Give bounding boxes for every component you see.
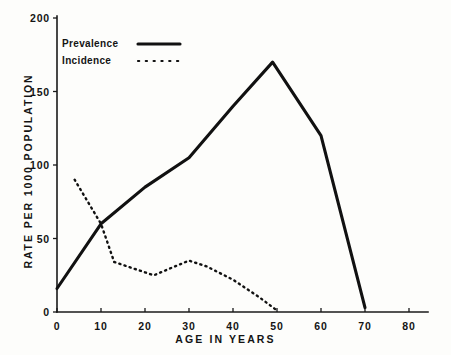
y-tick-label: 0 <box>8 306 50 318</box>
x-tick-label: 50 <box>270 320 283 332</box>
legend-label-prevalence: Prevalence <box>62 38 136 49</box>
x-tick-label: 80 <box>402 320 415 332</box>
legend-item-prevalence: Prevalence <box>62 35 188 52</box>
legend-swatch-dotted-icon <box>136 56 188 66</box>
legend-swatch-solid-icon <box>136 39 188 49</box>
legend-label-incidence: Incidence <box>62 55 136 66</box>
series-line-incidence <box>75 180 277 311</box>
chart-figure: 050100150200 01020304050607080 RATE PER … <box>0 0 451 355</box>
x-axis-title: AGE IN YEARS <box>0 333 451 345</box>
x-tick-label: 10 <box>94 320 107 332</box>
y-axis-title: RATE PER 1000 POPULATION <box>22 71 34 271</box>
x-tick-label: 40 <box>226 320 239 332</box>
y-tick-label: 200 <box>8 12 50 24</box>
x-tick-label: 70 <box>358 320 371 332</box>
x-tick-label: 30 <box>182 320 195 332</box>
x-tick-label: 60 <box>314 320 327 332</box>
chart-legend: Prevalence Incidence <box>62 35 188 69</box>
series-line-prevalence <box>57 62 365 308</box>
x-tick-label: 20 <box>138 320 151 332</box>
legend-item-incidence: Incidence <box>62 52 188 69</box>
x-tick-label: 0 <box>54 320 61 332</box>
